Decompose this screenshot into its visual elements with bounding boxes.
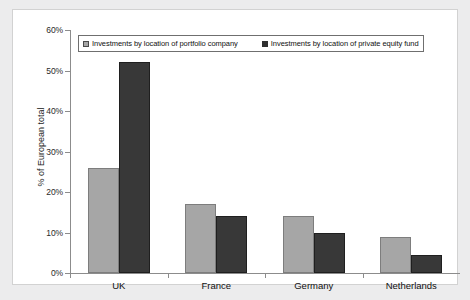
bar[interactable]: [216, 216, 247, 273]
chart-figure: % of European total 0%10%20%30%40%50%60%…: [0, 0, 470, 300]
y-tick-mark: [65, 233, 70, 234]
y-tick-mark: [65, 30, 70, 31]
chart-card: % of European total 0%10%20%30%40%50%60%…: [12, 9, 458, 285]
category-label: UK: [112, 280, 125, 291]
bar[interactable]: [283, 216, 314, 273]
bar[interactable]: [119, 62, 150, 273]
y-tick-mark: [65, 71, 70, 72]
y-axis-title-text: % of European total: [36, 107, 46, 186]
category-label: Germany: [294, 280, 333, 291]
legend-label: Investments by location of portfolio com…: [92, 39, 238, 48]
bar-group: [380, 30, 442, 273]
x-tick-mark: [363, 273, 364, 278]
bar[interactable]: [411, 255, 442, 273]
bar[interactable]: [380, 237, 411, 273]
y-tick-label: 50%: [46, 66, 63, 76]
legend-item[interactable]: Investments by location of private equit…: [262, 39, 419, 48]
y-tick-label: 20%: [46, 187, 63, 197]
category-label: France: [201, 280, 231, 291]
bar-group: [88, 30, 150, 273]
y-tick-label: 30%: [46, 147, 63, 157]
legend-item[interactable]: Investments by location of portfolio com…: [83, 39, 238, 48]
legend-swatch-icon: [262, 41, 268, 47]
chart-legend: Investments by location of portfolio com…: [78, 35, 424, 52]
y-tick-label: 0%: [51, 268, 63, 278]
x-tick-mark: [265, 273, 266, 278]
bar[interactable]: [314, 233, 345, 274]
legend-swatch-icon: [83, 41, 89, 47]
bar[interactable]: [88, 168, 119, 273]
y-tick-mark: [65, 192, 70, 193]
x-tick-mark: [168, 273, 169, 278]
plot-area: 0%10%20%30%40%50%60% UKFranceGermanyNeth…: [70, 30, 460, 274]
legend-label: Investments by location of private equit…: [271, 39, 419, 48]
y-tick-label: 60%: [46, 25, 63, 35]
bar[interactable]: [185, 204, 216, 273]
y-tick-label: 10%: [46, 228, 63, 238]
y-tick-mark: [65, 152, 70, 153]
category-label: Netherlands: [386, 280, 437, 291]
y-tick-label: 40%: [46, 106, 63, 116]
y-tick-mark: [65, 111, 70, 112]
bar-group: [185, 30, 247, 273]
y-axis-line: [70, 30, 71, 274]
x-tick-mark: [70, 273, 71, 278]
bar-group: [283, 30, 345, 273]
